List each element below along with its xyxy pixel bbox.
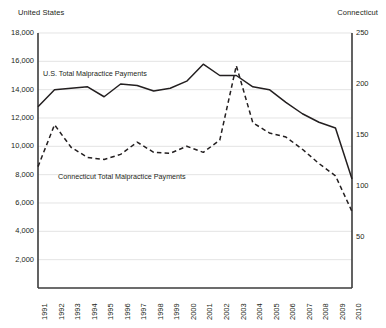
series-label-ct: Connecticut Total Malpractice Payments — [58, 172, 186, 181]
x-tick-label: 1991 — [41, 303, 49, 320]
series-line-us — [38, 64, 352, 179]
left-tick-label: 12,000 — [11, 114, 34, 122]
right-tick-label: 250 — [356, 29, 369, 37]
x-tick-label: 2000 — [190, 303, 198, 320]
x-tick-label: 2009 — [339, 303, 347, 320]
x-tick-label: 2006 — [289, 303, 297, 320]
left-tick-label: 2,000 — [15, 256, 34, 264]
left-tick-label: 16,000 — [11, 57, 34, 65]
right-tick-label: 50 — [356, 233, 364, 241]
left-tick-label: 10,000 — [11, 142, 34, 150]
plot-area — [0, 0, 386, 328]
x-tick-label: 2001 — [206, 303, 214, 320]
right-tick-label: 100 — [356, 182, 369, 190]
x-tick-label: 2007 — [306, 303, 314, 320]
left-tick-label: 6,000 — [15, 199, 34, 207]
x-tick-label: 1995 — [107, 303, 115, 320]
series-label-us: U.S. Total Malpractice Payments — [43, 69, 147, 78]
x-tick-label: 1998 — [157, 303, 165, 320]
x-tick-label: 2004 — [256, 303, 264, 320]
x-tick-label: 1992 — [58, 303, 66, 320]
chart-container: United States Connecticut 2,0004,0006,00… — [0, 0, 386, 328]
right-tick-label: 150 — [356, 131, 369, 139]
x-tick-label: 1993 — [74, 303, 82, 320]
x-tick-label: 2002 — [223, 303, 231, 320]
left-tick-label: 4,000 — [15, 227, 34, 235]
x-tick-label: 1994 — [91, 303, 99, 320]
x-tick-label: 2008 — [322, 303, 330, 320]
x-tick-label: 2005 — [273, 303, 281, 320]
left-tick-label: 18,000 — [11, 29, 34, 37]
right-tick-label: 200 — [356, 80, 369, 88]
x-tick-label: 2010 — [355, 303, 363, 320]
x-tick-label: 1997 — [140, 303, 148, 320]
x-tick-label: 1999 — [173, 303, 181, 320]
x-tick-label: 1996 — [124, 303, 132, 320]
left-tick-label: 8,000 — [15, 171, 34, 179]
x-tick-label: 2003 — [240, 303, 248, 320]
left-tick-label: 14,000 — [11, 86, 34, 94]
